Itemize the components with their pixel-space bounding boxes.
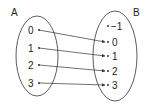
- set-a-element: 3: [28, 78, 34, 89]
- set-b-element: 0: [112, 37, 118, 48]
- set-b-element: 3: [112, 80, 118, 91]
- set-a-label: A: [11, 7, 18, 18]
- point-b1: [107, 55, 109, 57]
- set-a-element: 2: [28, 60, 34, 71]
- set-a-element: 1: [28, 43, 34, 54]
- set-b-element: 2: [112, 66, 118, 77]
- arrow-3-to-3: [39, 83, 105, 85]
- set-b-element: 1: [112, 51, 118, 62]
- point-b-neg1: [107, 25, 109, 27]
- point-b2: [107, 70, 109, 72]
- mapping-diagram: A 0 1 2 3 B −1 0 1 2 3: [0, 0, 147, 104]
- arrow-2-to-2: [39, 65, 105, 71]
- set-b-label: B: [133, 7, 140, 18]
- point-b3: [107, 84, 109, 86]
- set-a-element: 0: [28, 25, 34, 36]
- arrow-1-to-1: [39, 48, 105, 56]
- set-b-element: −1: [111, 21, 123, 32]
- point-b0: [107, 41, 109, 43]
- set-a-ellipse: [16, 16, 58, 96]
